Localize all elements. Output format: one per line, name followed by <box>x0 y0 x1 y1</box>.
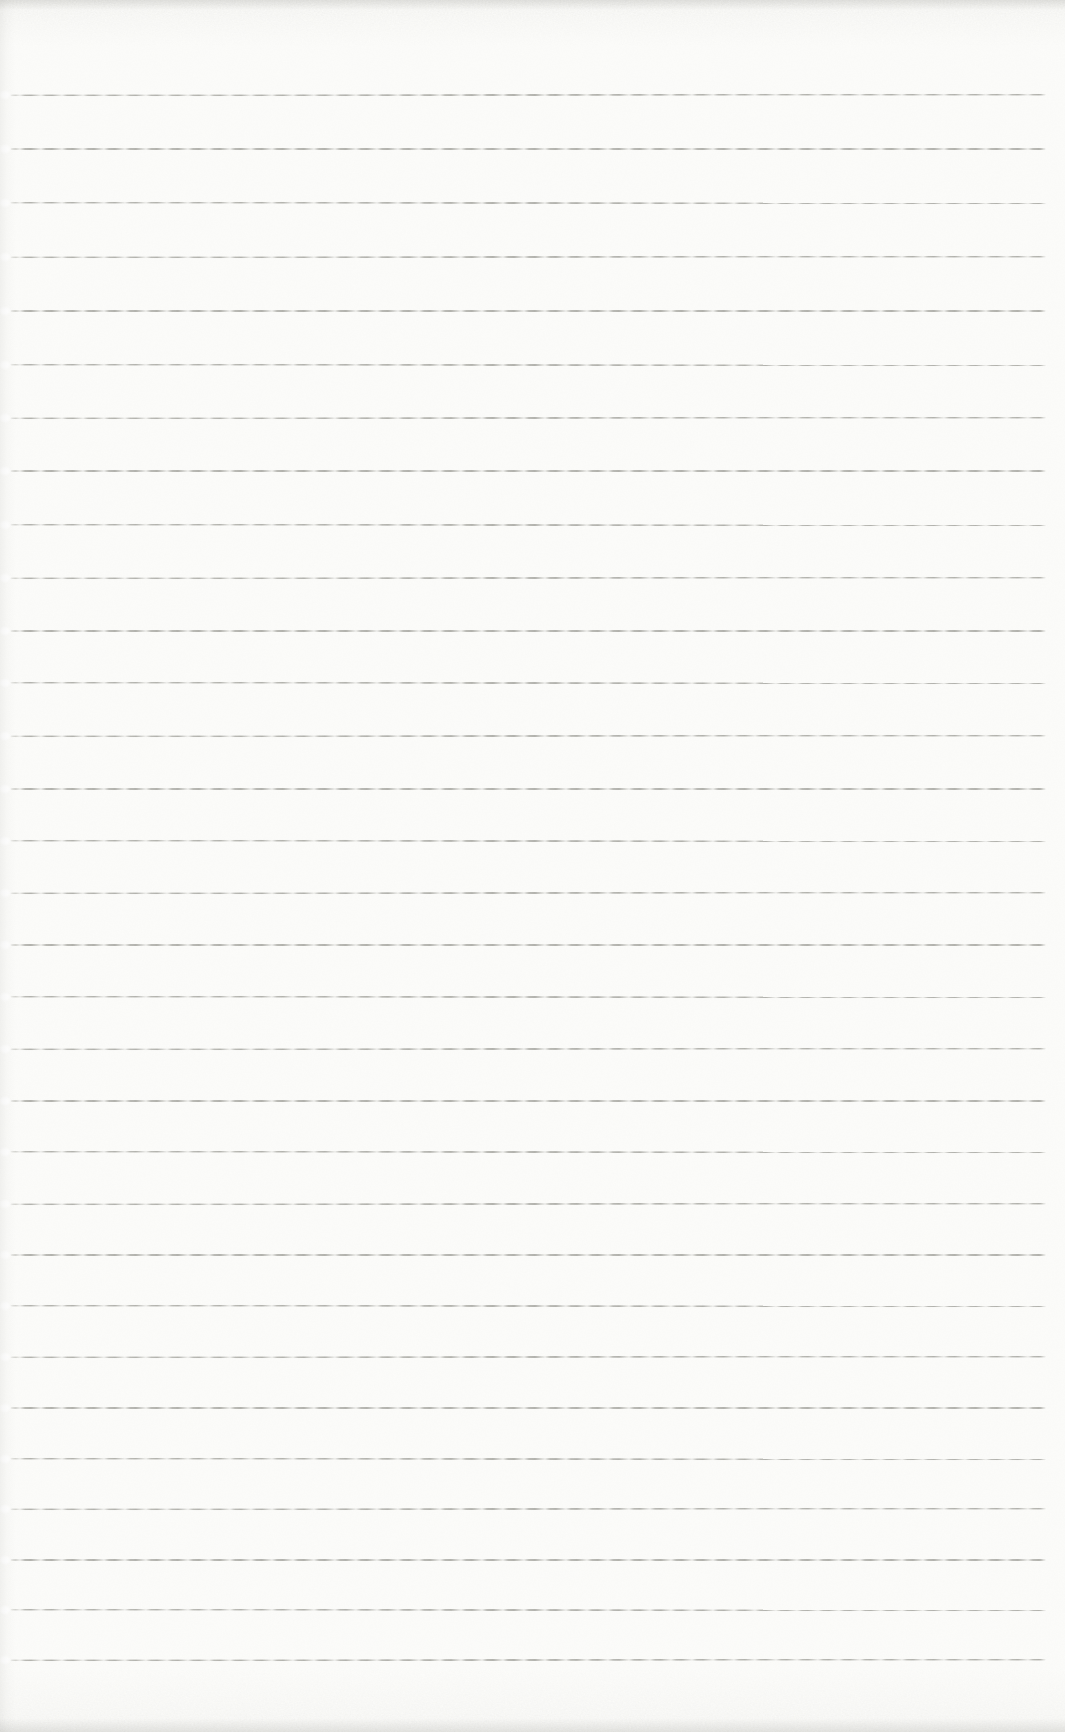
ruled-line <box>10 1305 1046 1308</box>
ruled-line <box>10 1407 1046 1409</box>
left-edge-notch <box>0 574 10 582</box>
notebook-page <box>0 0 1065 1732</box>
ruled-line <box>10 1356 1046 1359</box>
paper-speckle-texture <box>0 0 1065 1732</box>
left-edge-notch <box>0 1556 10 1564</box>
ruled-line <box>10 682 1046 685</box>
left-edge-notch <box>0 1656 10 1664</box>
ruled-line <box>10 892 1046 895</box>
ruled-line <box>10 1202 1046 1205</box>
ruled-line <box>10 256 1046 259</box>
left-edge-notch <box>0 1404 10 1412</box>
ruled-line <box>10 944 1046 946</box>
left-edge-notch <box>0 1148 10 1156</box>
ruled-line <box>10 363 1046 366</box>
left-edge-notch <box>0 785 10 793</box>
ruled-line <box>10 417 1046 420</box>
left-edge-notch <box>0 253 10 261</box>
left-edge-notch <box>0 91 10 99</box>
ruled-line <box>10 840 1046 843</box>
top-edge-grain-texture <box>0 0 1065 46</box>
ruled-line <box>10 1559 1046 1561</box>
ruled-line <box>10 1100 1046 1102</box>
left-edge-notch <box>0 307 10 315</box>
ruled-line <box>10 1659 1046 1662</box>
left-edge-notch <box>0 1251 10 1259</box>
bottom-edge-grain-texture <box>0 1668 1065 1732</box>
left-edge-notch <box>0 199 10 207</box>
left-edge-notch <box>0 627 10 635</box>
left-edge-notch <box>0 521 10 529</box>
ruled-line <box>10 1151 1046 1154</box>
ruled-line <box>10 470 1046 472</box>
left-edge-notch <box>0 1302 10 1310</box>
page-left-edge-shadow <box>0 0 16 1732</box>
left-edge-notch <box>0 837 10 845</box>
ruled-line <box>10 1048 1046 1051</box>
ruled-line <box>10 996 1046 999</box>
ruled-line <box>10 148 1046 150</box>
left-edge-notch <box>0 679 10 687</box>
bottom-edge-shade <box>0 1718 1065 1732</box>
left-edge-notch <box>0 361 10 369</box>
ruled-line <box>10 788 1046 790</box>
top-edge-shade <box>0 0 1065 10</box>
left-edge-notch <box>0 1200 10 1208</box>
ruled-line <box>10 202 1046 205</box>
left-edge-notch <box>0 941 10 949</box>
left-edge-notch <box>0 993 10 1001</box>
left-edge-notch <box>0 889 10 897</box>
ruled-line <box>10 1457 1046 1460</box>
left-edge-notch <box>0 145 10 153</box>
left-edge-notch <box>0 1455 10 1463</box>
ruled-line <box>10 523 1046 526</box>
ruled-line <box>10 94 1046 97</box>
ruled-line <box>10 310 1046 312</box>
ruled-line <box>10 1508 1046 1511</box>
ruled-line <box>10 1609 1046 1612</box>
left-edge-notch <box>0 1097 10 1105</box>
ruled-line <box>10 1254 1046 1256</box>
left-edge-notch <box>0 1505 10 1513</box>
left-edge-notch <box>0 1045 10 1053</box>
ruled-line <box>10 576 1046 579</box>
left-edge-notch <box>0 1353 10 1361</box>
left-edge-notch <box>0 732 10 740</box>
ruled-line <box>10 735 1046 738</box>
ruled-line <box>10 630 1046 632</box>
left-edge-notch <box>0 414 10 422</box>
left-edge-notch <box>0 1606 10 1614</box>
left-edge-notch <box>0 467 10 475</box>
